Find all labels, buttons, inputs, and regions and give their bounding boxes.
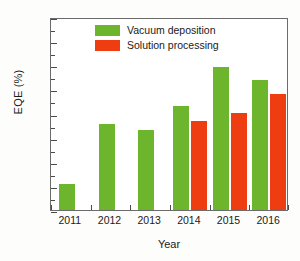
bar-2014-solution-processing: [191, 121, 207, 210]
bar-2013-vacuum-deposition: [138, 130, 154, 210]
x-tick-label-2012: 2012: [88, 214, 132, 226]
y-tick-minor: [51, 200, 55, 201]
bar-2016-vacuum-deposition: [252, 80, 268, 210]
x-axis-title: Year: [50, 238, 288, 250]
x-tick-label-2014: 2014: [167, 214, 211, 226]
y-tick-minor: [51, 55, 55, 56]
x-tick-label-2013: 2013: [127, 214, 171, 226]
legend-item-vacuum-deposition: Vacuum deposition: [95, 24, 219, 36]
x-tick-label-2011: 2011: [48, 214, 92, 226]
chart-legend: Vacuum depositionSolution processing: [95, 24, 219, 51]
legend-label: Solution processing: [127, 40, 219, 51]
y-tick-minor: [51, 103, 55, 104]
bar-2016-solution-processing: [270, 94, 286, 210]
y-tick-0: [51, 212, 57, 213]
x-tick-2016: [249, 205, 250, 210]
chart-figure: EQE (%) Year 0510152025303540 2011201220…: [0, 0, 300, 261]
x-tick-label-2015: 2015: [207, 214, 251, 226]
bar-2012-vacuum-deposition: [99, 124, 115, 210]
legend-label: Vacuum deposition: [127, 25, 216, 36]
x-tick-label-2016: 2016: [246, 214, 290, 226]
y-tick-25: [51, 91, 57, 92]
y-tick-minor: [51, 128, 55, 129]
y-tick-40: [51, 19, 57, 20]
legend-swatch-icon: [95, 40, 120, 51]
y-tick-15: [51, 140, 57, 141]
y-tick-30: [51, 67, 57, 68]
bar-2015-solution-processing: [231, 113, 247, 210]
bar-2015-vacuum-deposition: [213, 67, 229, 210]
y-tick-minor: [51, 31, 55, 32]
y-axis-title: EQE (%): [12, 52, 24, 132]
legend-swatch-icon: [95, 25, 120, 36]
y-tick-10: [51, 164, 57, 165]
x-tick-2013: [130, 205, 131, 210]
x-tick-2014: [170, 205, 171, 210]
y-tick-20: [51, 116, 57, 117]
y-tick-5: [51, 188, 57, 189]
y-tick-minor: [51, 152, 55, 153]
x-tick-end: [288, 205, 289, 210]
x-tick-2012: [91, 205, 92, 210]
bar-2014-vacuum-deposition: [173, 106, 189, 210]
y-tick-minor: [51, 176, 55, 177]
x-tick-2011: [51, 205, 52, 210]
y-tick-minor: [51, 79, 55, 80]
bar-2011-vacuum-deposition: [59, 184, 75, 210]
y-tick-35: [51, 43, 57, 44]
legend-item-solution-processing: Solution processing: [95, 39, 219, 51]
x-tick-2015: [210, 205, 211, 210]
